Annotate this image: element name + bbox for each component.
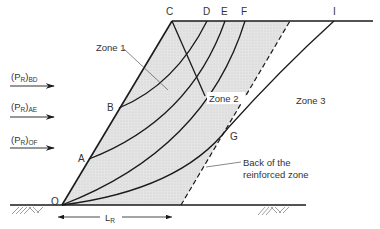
zone1-label: Zone 1 [96,42,126,53]
point-G-label: G [230,131,238,142]
force-arrow-AE: (PR)AE [10,101,54,117]
svg-text:(PR)OF: (PR)OF [11,134,37,146]
point-D-label: D [203,6,210,17]
point-A-label: A [78,153,85,164]
ground-hatch-right [258,207,289,215]
svg-text:(PR)AE: (PR)AE [11,101,38,113]
zone2-label: Zone 2 [209,93,239,104]
force-arrow-OF: (PR)OF [10,134,54,148]
svg-text:LR: LR [105,212,115,224]
reinforcement-length-dimension: LR [58,212,172,224]
back-zone-label-line2: reinforced zone [243,169,308,180]
back-zone-leader [206,162,241,167]
ground-hatch-left [12,207,43,214]
point-B-label: B [107,102,114,113]
back-zone-label-line1: Back of the [243,157,291,168]
point-E-label: E [221,6,228,17]
svg-text:(PR)BD: (PR)BD [11,71,38,83]
point-C-label: C [166,6,173,17]
zone3-label: Zone 3 [296,95,326,106]
point-I-label: I [333,6,336,17]
force-arrow-BD: (PR)BD [10,71,54,86]
point-F-label: F [241,6,247,17]
reinforced-slope-diagram: C D E F I B A O G Zone 1 Zone 2 Zone 3 (… [0,0,380,229]
point-O-label: O [51,196,59,207]
